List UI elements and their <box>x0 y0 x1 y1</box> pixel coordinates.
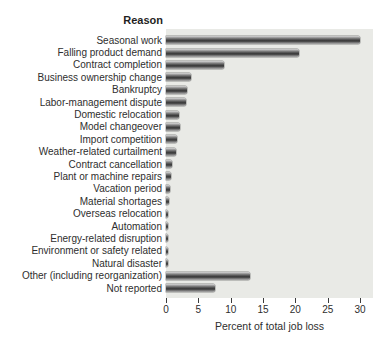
bar <box>166 111 179 119</box>
chart-row: Natural disaster <box>0 257 373 269</box>
category-label: Falling product demand <box>0 47 166 58</box>
category-label: Energy-related disruption <box>0 233 166 244</box>
x-axis-tick-label: 0 <box>163 304 169 315</box>
bar <box>166 49 299 57</box>
bar <box>166 73 191 81</box>
category-axis-header: Reason <box>0 0 171 29</box>
bar <box>166 247 168 255</box>
bar-track <box>166 46 373 58</box>
bar-track <box>166 121 373 133</box>
bar-track <box>166 170 373 182</box>
x-axis-tick-label: 15 <box>257 304 268 315</box>
bar-track <box>166 207 373 219</box>
category-label: Environment or safety related <box>0 245 166 256</box>
bar-track <box>166 59 373 71</box>
chart-row: Vacation period <box>0 183 373 195</box>
chart-row: Overseas relocation <box>0 207 373 219</box>
chart-row: Automation <box>0 220 373 232</box>
bar-track <box>166 71 373 83</box>
bar <box>166 272 250 280</box>
category-label: Seasonal work <box>0 35 166 46</box>
category-label: Natural disaster <box>0 258 166 269</box>
category-label: Overseas relocation <box>0 208 166 219</box>
x-axis-tick <box>295 298 296 303</box>
chart-row: Labor-management dispute <box>0 96 373 108</box>
bar-track <box>166 183 373 195</box>
bar-track <box>166 84 373 96</box>
bar <box>166 123 180 131</box>
x-axis-tick-label: 20 <box>290 304 301 315</box>
chart-row: Model changeover <box>0 121 373 133</box>
bar <box>166 284 215 292</box>
bar-track <box>166 257 373 269</box>
chart-row: Plant or machine repairs <box>0 170 373 182</box>
chart-row: Bankruptcy <box>0 84 373 96</box>
plot-area: Seasonal workFalling product demandContr… <box>0 29 373 298</box>
x-axis-tick-label: 5 <box>196 304 202 315</box>
bar <box>166 222 168 230</box>
bar <box>166 234 168 242</box>
x-axis-label-row: Percent of total job loss <box>166 316 373 332</box>
x-axis-tick <box>360 298 361 303</box>
bar <box>166 86 187 94</box>
chart-row: Business ownership change <box>0 71 373 83</box>
x-axis-tick <box>166 298 167 303</box>
category-label: Business ownership change <box>0 72 166 83</box>
bar-track <box>166 220 373 232</box>
bar-track <box>166 133 373 145</box>
chart-row: Weather-related curtailment <box>0 146 373 158</box>
category-label: Not reported <box>0 283 166 294</box>
chart-row: Domestic relocation <box>0 108 373 120</box>
bar <box>166 160 172 168</box>
category-label: Material shortages <box>0 196 166 207</box>
chart-row: Environment or safety related <box>0 245 373 257</box>
category-axis-title: Reason <box>123 14 163 26</box>
horizontal-bar-chart: Reason Seasonal workFalling product dema… <box>0 0 386 346</box>
category-label: Model changeover <box>0 121 166 132</box>
category-label: Other (including reorganization) <box>0 270 166 281</box>
bar-track <box>166 232 373 244</box>
x-axis-tick <box>328 298 329 303</box>
chart-row: Seasonal work <box>0 34 373 46</box>
bar <box>166 259 168 267</box>
chart-row: Energy-related disruption <box>0 232 373 244</box>
bar <box>166 98 186 106</box>
category-label: Weather-related curtailment <box>0 146 166 157</box>
x-axis-tick <box>231 298 232 303</box>
bar-track <box>166 282 373 294</box>
bar <box>166 210 168 218</box>
category-label: Import competition <box>0 134 166 145</box>
category-label: Vacation period <box>0 183 166 194</box>
chart-row: Material shortages <box>0 195 373 207</box>
x-axis-tick <box>198 298 199 303</box>
bar-track <box>166 245 373 257</box>
bar-track <box>166 108 373 120</box>
category-label: Bankruptcy <box>0 84 166 95</box>
chart-row: Other (including reorganization) <box>0 269 373 281</box>
chart-row: Not reported <box>0 282 373 294</box>
chart-row: Contract cancellation <box>0 158 373 170</box>
chart-row: Import competition <box>0 133 373 145</box>
category-label: Automation <box>0 221 166 232</box>
bar <box>166 135 177 143</box>
bar-track <box>166 158 373 170</box>
bar <box>166 36 360 44</box>
bar-track <box>166 269 373 281</box>
category-label: Domestic relocation <box>0 109 166 120</box>
bar <box>166 197 169 205</box>
category-label: Contract cancellation <box>0 159 166 170</box>
category-label: Plant or machine repairs <box>0 171 166 182</box>
x-axis-tick-labels: 051015202530 <box>166 304 373 316</box>
bar <box>166 172 171 180</box>
x-axis-tick-label: 30 <box>355 304 366 315</box>
bar-track <box>166 195 373 207</box>
chart-row: Falling product demand <box>0 46 373 58</box>
bar <box>166 61 224 69</box>
x-axis-tick-label: 10 <box>225 304 236 315</box>
chart-row: Contract completion <box>0 59 373 71</box>
x-axis-tick-label: 25 <box>322 304 333 315</box>
x-axis-tick <box>263 298 264 303</box>
bar <box>166 185 170 193</box>
category-label: Contract completion <box>0 59 166 70</box>
category-label: Labor-management dispute <box>0 97 166 108</box>
